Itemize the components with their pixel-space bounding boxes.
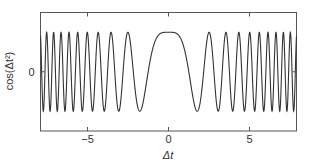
x-tick-label: 5 — [246, 133, 252, 145]
cosine-curve — [41, 32, 297, 111]
chart: −505 0 Δt cos(Δt²) — [0, 0, 311, 165]
plot-frame — [41, 13, 297, 132]
y-tick-label: 0 — [28, 66, 34, 78]
y-axis-label: cos(Δt²) — [3, 52, 15, 91]
plot-area: −505 0 — [28, 13, 296, 146]
x-tick-label: −5 — [81, 133, 94, 145]
x-tick-label: 0 — [165, 133, 171, 145]
y-axis-ticks: 0 — [28, 66, 296, 78]
x-axis-label: Δt — [162, 149, 174, 161]
